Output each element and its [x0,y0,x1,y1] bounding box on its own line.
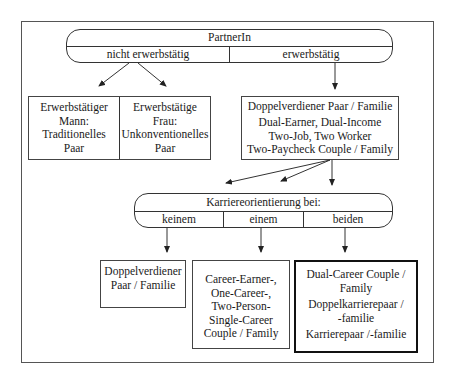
connector-arrows [0,0,454,386]
arrow [138,63,166,86]
arrow [226,160,330,183]
arrow [99,63,129,86]
arrow [281,160,330,181]
